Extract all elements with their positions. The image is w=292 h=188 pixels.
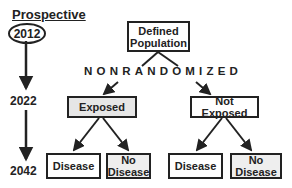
exposed-no-disease-label: No Disease — [108, 154, 150, 178]
not-exposed-no-disease-box: No Disease — [230, 153, 282, 179]
year-2042: 2042 — [10, 164, 37, 178]
exposed-no-disease-box: No Disease — [106, 153, 151, 179]
defined-population-box: Defined Population — [127, 21, 190, 52]
study-type-heading: Prospective — [12, 7, 86, 22]
defined-population-label: Defined Population — [129, 25, 188, 49]
not-exposed-box: Not Exposed — [190, 96, 259, 118]
start-year-oval: 2012 — [8, 23, 46, 44]
exposed-disease-box: Disease — [46, 153, 101, 179]
exposed-disease-label: Disease — [53, 160, 95, 172]
not-exposed-no-disease-label: No Disease — [232, 154, 280, 178]
not-exposed-label: Not Exposed — [192, 95, 257, 119]
nonrandomized-label: NONRANDOMIZED — [84, 65, 242, 77]
exposed-label: Exposed — [79, 101, 125, 113]
year-2012: 2012 — [14, 27, 41, 41]
not-exposed-disease-label: Disease — [175, 160, 217, 172]
exposed-box: Exposed — [67, 96, 137, 118]
not-exposed-disease-box: Disease — [168, 153, 223, 179]
year-2022: 2022 — [10, 94, 37, 108]
